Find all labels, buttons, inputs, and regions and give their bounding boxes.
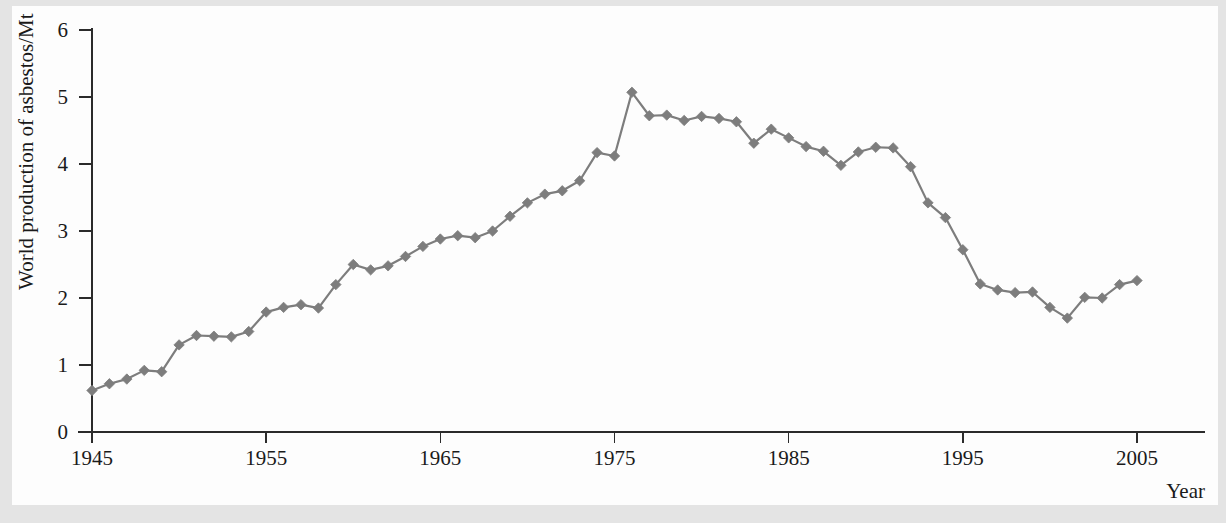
series-line-asbestos	[92, 92, 1137, 390]
data-point-marker	[1010, 287, 1020, 297]
data-point-marker	[992, 285, 1002, 295]
data-point-marker	[209, 331, 219, 341]
data-point-marker	[696, 111, 706, 121]
y-tick-label: 2	[58, 286, 69, 310]
y-tick-label: 1	[58, 353, 69, 377]
data-point-marker	[975, 279, 985, 289]
data-point-marker	[365, 265, 375, 275]
y-axis-ticks: 0123456	[58, 18, 93, 444]
y-tick-label: 5	[58, 85, 69, 109]
x-tick-label: 1995	[942, 446, 984, 470]
data-point-marker	[435, 234, 445, 244]
x-tick-label: 2005	[1116, 446, 1158, 470]
y-tick-label: 4	[58, 152, 69, 176]
data-point-marker	[226, 332, 236, 342]
x-tick-label: 1965	[419, 446, 461, 470]
data-point-marker	[801, 141, 811, 151]
data-point-marker	[574, 176, 584, 186]
x-tick-label: 1945	[71, 446, 113, 470]
x-axis-title: Year	[1166, 479, 1205, 503]
plot-series-group	[87, 87, 1142, 396]
y-axis-title: World production of asbestos/Mt	[14, 13, 38, 290]
data-point-marker	[1132, 275, 1142, 285]
series-markers-asbestos	[87, 87, 1142, 396]
data-point-marker	[871, 142, 881, 152]
chart-canvas: 0123456 1945195519651975198519952005 Wor…	[0, 0, 1226, 523]
data-point-marker	[958, 245, 968, 255]
data-point-marker	[557, 186, 567, 196]
chart-screenshot: 0123456 1945195519651975198519952005 Wor…	[0, 0, 1226, 523]
data-point-marker	[418, 241, 428, 251]
x-tick-label: 1955	[245, 446, 287, 470]
x-tick-label: 1975	[594, 446, 636, 470]
data-point-marker	[400, 251, 410, 261]
x-tick-label: 1985	[768, 446, 810, 470]
data-point-marker	[278, 302, 288, 312]
y-tick-label: 6	[58, 18, 69, 42]
x-axis-group: 1945195519651975198519952005	[71, 432, 1205, 470]
data-point-marker	[679, 115, 689, 125]
x-axis-ticks: 1945195519651975198519952005	[71, 432, 1158, 470]
data-point-marker	[470, 233, 480, 243]
data-point-marker	[592, 147, 602, 157]
data-point-marker	[662, 110, 672, 120]
y-axis-group: 0123456	[58, 18, 93, 444]
data-point-marker	[714, 113, 724, 123]
data-point-marker	[296, 300, 306, 310]
data-point-marker	[453, 230, 463, 240]
asbestos-production-line-chart: 0123456 1945195519651975198519952005 Wor…	[0, 0, 1226, 523]
data-point-marker	[540, 189, 550, 199]
y-tick-label: 3	[58, 219, 69, 243]
data-point-marker	[609, 151, 619, 161]
data-point-marker	[104, 379, 114, 389]
data-point-marker	[783, 133, 793, 143]
y-tick-label: 0	[58, 420, 69, 444]
data-point-marker	[191, 330, 201, 340]
data-point-marker	[383, 261, 393, 271]
data-point-marker	[122, 374, 132, 384]
data-point-marker	[87, 385, 97, 395]
data-point-marker	[139, 365, 149, 375]
